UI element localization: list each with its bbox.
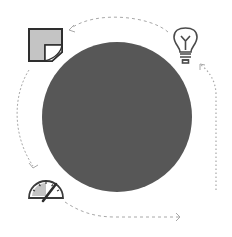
connectors-layer	[0, 0, 232, 237]
connector-top-arrow	[69, 17, 168, 32]
cycle-diagram	[0, 0, 232, 237]
connector-left-arrow	[17, 70, 38, 168]
gauge-icon	[29, 181, 63, 201]
connector-right-arrow	[200, 64, 216, 190]
sticky-note-icon	[29, 29, 62, 61]
connector-bottom-arrow	[65, 202, 180, 221]
lightbulb-icon	[174, 28, 197, 63]
